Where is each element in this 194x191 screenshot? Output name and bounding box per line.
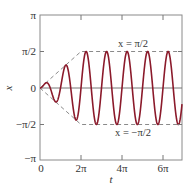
x-tick-label-6pi: 6π [157, 162, 169, 174]
chart: π π/2 0 −π/2 −π 0 2π 4π 6π t x x = π/2 x… [0, 0, 194, 191]
y-tick-label-neg-pi: −π [24, 152, 36, 164]
annotation-upper-bound: x = π/2 [118, 38, 148, 49]
y-tick-label-zero: 0 [31, 82, 37, 94]
y-tick-label-pi: π [30, 9, 36, 21]
x-axis-label: t [109, 173, 113, 185]
y-tick-label-neg-half-pi: −π/2 [16, 118, 36, 130]
y-axis-label: x [2, 85, 14, 91]
x-tick-label-zero: 0 [38, 162, 44, 174]
y-tick-label-half-pi: π/2 [22, 45, 36, 57]
x-tick-label-2pi: 2π [75, 162, 87, 174]
annotation-lower-bound: x = −π/2 [115, 127, 151, 138]
x-tick-label-4pi: 4π [116, 162, 128, 174]
